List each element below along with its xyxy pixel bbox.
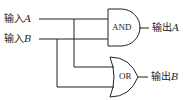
input-a-var: A: [24, 13, 31, 24]
output-a-var: A: [172, 22, 179, 33]
input-b-prefix: 输入: [4, 33, 24, 44]
output-b-label: 输出B: [151, 72, 178, 82]
wire-b-to-or: [57, 39, 114, 87]
input-a-label: 输入A: [4, 14, 31, 24]
input-a-prefix: 输入: [4, 13, 24, 24]
and-gate-label: AND: [112, 23, 132, 32]
output-b-prefix: 输出: [151, 71, 171, 82]
or-gate-label: OR: [119, 72, 132, 81]
output-a-label: 输出A: [152, 23, 179, 33]
input-b-var: B: [24, 33, 31, 44]
output-b-var: B: [171, 71, 178, 82]
input-b-label: 输入B: [4, 34, 31, 44]
output-a-prefix: 输出: [152, 22, 172, 33]
